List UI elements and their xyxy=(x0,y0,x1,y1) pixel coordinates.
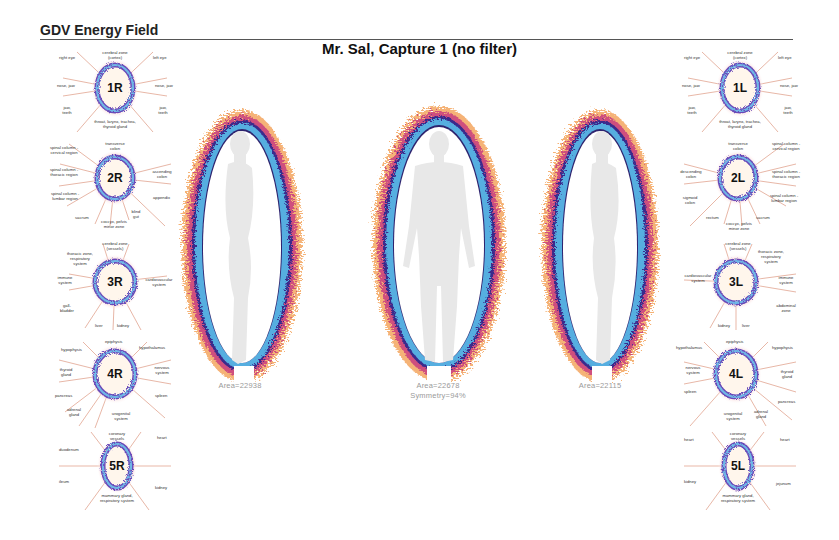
sector-label: spinal column - lumbar region xyxy=(47,192,83,202)
sector-code: 5L xyxy=(731,459,745,473)
sector-label: blind gut xyxy=(129,210,143,220)
sector-label: coronary vessels xyxy=(107,432,127,442)
area-value-front: Area=22678 xyxy=(378,381,498,391)
sector-label: throat, larynx, trachea, thyroid gland xyxy=(93,120,137,130)
sector-label: coccyx, pelvis minor zone xyxy=(724,222,754,232)
sector-label: hypophysis xyxy=(61,348,82,353)
sector-label: liver xyxy=(95,324,103,329)
area-value-right-side: Area=22938 xyxy=(180,381,300,391)
sector-label: mammary gland, respiratory system xyxy=(720,494,756,504)
sector-label: thyroid gland xyxy=(59,368,73,378)
sector-label: kidney xyxy=(684,480,696,485)
sector-label: heart xyxy=(780,438,790,443)
sector-label: pancreas xyxy=(55,394,72,399)
sector-diagram-1L[interactable]: 1L cerebral zone (cortex) right eye left… xyxy=(680,46,800,140)
sector-code: 2R xyxy=(107,171,122,185)
sector-label: kidney xyxy=(155,486,167,491)
sector-label: spinal column - lumbar region xyxy=(766,194,802,204)
sector-diagram-4R[interactable]: 4R epiphysis hypophysis hypothalamus thy… xyxy=(55,338,175,432)
sector-diagram-1R[interactable]: 1R cerebral zone (cortex) right eye left… xyxy=(55,46,175,140)
sector-label: transverse colon xyxy=(726,142,750,152)
sector-label: rectum xyxy=(706,216,719,221)
sector-diagram-3R[interactable]: 3R cerebral zone (vessels) thoracic zone… xyxy=(55,240,175,334)
sector-label: duodenum xyxy=(59,448,79,453)
sector-label: immune system xyxy=(778,276,794,286)
sector-label: jaw, teeth xyxy=(157,106,169,116)
sector-label: kidney xyxy=(117,324,129,329)
sector-diagram-2R[interactable]: 2R transverse colon spinal column - cerv… xyxy=(55,140,175,234)
sector-label: nervous system xyxy=(151,366,173,376)
sector-diagram-4L[interactable]: 4L epiphysis hypothalamus hypophysis ner… xyxy=(680,338,800,432)
sector-diagram-5R[interactable]: 5R coronary vessels duodenum heart ileum… xyxy=(55,428,175,522)
aura-figure-left-side[interactable] xyxy=(538,98,668,388)
sector-label: nose, jaw xyxy=(682,84,700,89)
sector-ring-2L xyxy=(680,140,800,234)
sector-label: hypothalamus xyxy=(139,346,165,351)
sector-label: pancreas xyxy=(778,400,795,405)
sector-label: thyroid gland xyxy=(780,370,794,380)
sector-label: transverse colon xyxy=(103,142,127,152)
sector-label: spleen xyxy=(155,394,167,399)
sector-label: adrenal gland xyxy=(754,410,768,420)
sector-label: throat, larynx, trachea, thyroid gland xyxy=(718,120,762,130)
sector-label: urogenital system xyxy=(720,412,746,422)
sector-label: cerebral zone (cortex) xyxy=(99,51,131,61)
sector-label: jaw, teeth xyxy=(782,106,794,116)
sector-diagram-5L[interactable]: 5L coronary vessels heart heart kidney j… xyxy=(680,428,800,522)
sector-label: jaw, teeth xyxy=(686,106,698,116)
sector-label: abdominal zone xyxy=(776,304,796,314)
sector-label: cerebral zone (vessels) xyxy=(101,242,129,252)
sector-label: cerebral zone (vessels) xyxy=(724,242,752,252)
sector-label: immune system xyxy=(57,276,73,286)
aura-figure-right-side[interactable] xyxy=(176,98,306,388)
sector-label: spinal column - cervical region xyxy=(45,146,83,156)
sector-code: 3R xyxy=(107,275,122,289)
sector-label: cardiovascular system xyxy=(682,274,714,284)
sector-code: 4L xyxy=(729,367,743,381)
sector-code: 3L xyxy=(729,275,743,289)
sector-label: coronary vessels xyxy=(728,432,748,442)
sector-label: nose, jaw xyxy=(780,84,798,89)
aura-figure-front[interactable] xyxy=(365,96,513,388)
sector-label: sigmoid colon xyxy=(682,196,698,206)
sector-diagram-2L[interactable]: 2L transverse colon spinal column - cerv… xyxy=(680,140,800,234)
sector-label: jaw, teeth xyxy=(61,106,73,116)
area-value-left-side: Area=22115 xyxy=(540,381,660,391)
sector-code: 1R xyxy=(107,81,122,95)
sector-label: kidney xyxy=(718,324,730,329)
sector-label: hypothalamus xyxy=(676,346,702,351)
sector-code: 5R xyxy=(109,459,124,473)
sector-label: coccyx, pelvis minor zone xyxy=(99,220,129,230)
aura-field-graphic xyxy=(538,98,668,388)
sector-label: ascending colon xyxy=(151,170,173,180)
sector-label: spleen xyxy=(684,390,696,395)
sector-label: thoracic zone, respiratory system xyxy=(65,252,95,266)
sector-label: spinal column - thoracic region xyxy=(45,168,83,178)
sector-label: jejunum xyxy=(776,482,791,487)
sector-label: adrenal gland xyxy=(67,408,81,418)
sector-label: nose, jaw xyxy=(57,84,75,89)
symmetry-value: Symmetry=94% xyxy=(378,391,498,401)
sector-label: mammary gland, respiratory system xyxy=(99,494,135,504)
sector-label: right eye xyxy=(59,56,75,61)
sector-code: 2L xyxy=(731,171,745,185)
sector-label: gall-bladder xyxy=(59,304,75,314)
sector-label: nose, jaw xyxy=(155,84,173,89)
sector-ring-5R xyxy=(55,428,175,522)
document-title: GDV Energy Field xyxy=(40,22,158,38)
sector-label: sacrum xyxy=(756,216,770,221)
sector-diagram-3L[interactable]: 3L cerebral zone (vessels) thoracic zone… xyxy=(680,240,800,334)
sector-label: liver xyxy=(742,324,750,329)
sector-code: 1L xyxy=(733,81,747,95)
aura-field-graphic xyxy=(365,96,513,388)
sector-label: appendix xyxy=(153,196,170,201)
sector-label: epiphysis xyxy=(726,340,743,345)
sector-label: sacrum xyxy=(75,216,89,221)
sector-label: hypophysis xyxy=(772,346,793,351)
sector-label: spinal column - thoracic region xyxy=(768,170,804,180)
sector-label: descending colon xyxy=(680,170,702,180)
aura-field-graphic xyxy=(176,98,306,388)
sector-code: 4R xyxy=(107,367,122,381)
sector-label: epiphysis xyxy=(105,340,122,345)
sector-label: ileum xyxy=(59,480,69,485)
